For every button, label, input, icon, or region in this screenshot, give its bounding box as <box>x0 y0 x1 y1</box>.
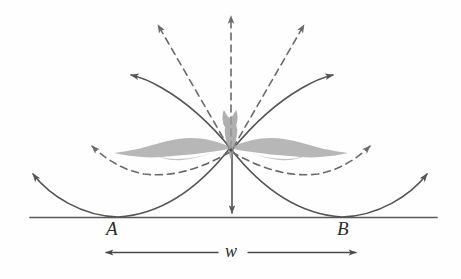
width-label-w: w <box>220 241 242 262</box>
point-label-a: A <box>106 218 118 240</box>
dashed-ray-upper-left <box>158 25 229 148</box>
solid-curve-far-left <box>33 148 230 217</box>
launch-point <box>229 148 232 151</box>
dashed-ray-upper-right <box>233 25 304 148</box>
bat-silhouette <box>114 110 348 160</box>
solid-curve-far-right <box>230 148 427 217</box>
point-label-b: B <box>337 218 349 240</box>
figure-canvas <box>0 0 461 279</box>
solid-curve-inner-right <box>232 75 333 150</box>
bat-trajectory-figure: A B w <box>0 0 461 279</box>
